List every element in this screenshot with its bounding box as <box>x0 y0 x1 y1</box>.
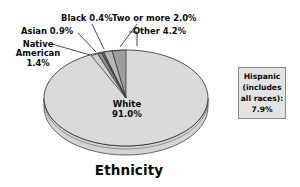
hispanic-note-text: Hispanic (includes all races): 7.9% <box>241 71 284 115</box>
leader-line-black <box>92 24 104 49</box>
ethnicity-pie-chart-figure: Black 0.4% Two or more 2.0% Asian 0.9% O… <box>0 0 300 187</box>
slice-label-white-name: White <box>113 99 141 109</box>
callout-label-two-or-more: Two or more 2.0% <box>112 14 196 23</box>
hispanic-note-box: Hispanic (includes all races): 7.9% <box>238 67 286 119</box>
callout-label-other: Other 4.2% <box>133 27 186 36</box>
leader-line-asian <box>78 33 96 52</box>
callout-label-native-american: Native American 1.4% <box>8 40 68 68</box>
callout-label-black: Black 0.4% <box>61 14 113 23</box>
callout-label-asian: Asian 0.9% <box>21 27 73 36</box>
slice-label-white-value: 91.0% <box>112 109 142 119</box>
slice-label-white: White 91.0% <box>97 100 157 119</box>
chart-title: Ethnicity <box>0 163 258 178</box>
